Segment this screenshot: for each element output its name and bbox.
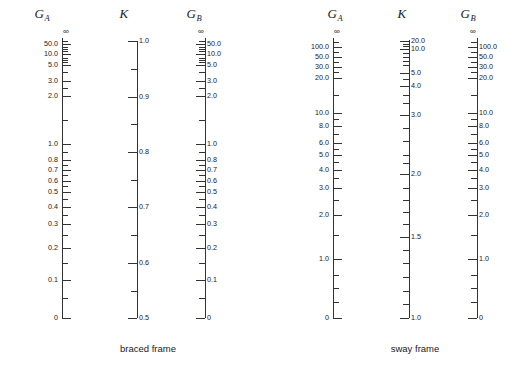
- major-tick: [400, 73, 409, 74]
- panel-sway: GA∞100.050.030.020.010.08.06.05.04.03.02…: [0, 0, 527, 365]
- major-tick: [333, 215, 342, 216]
- tick-label: 0: [479, 314, 527, 321]
- major-tick: [468, 57, 477, 58]
- minor-tick: [471, 134, 477, 135]
- minor-tick: [471, 72, 477, 73]
- tick-label: 2.0: [279, 211, 329, 218]
- minor-tick: [403, 44, 409, 45]
- alignment-chart-figure: GA∞50.010.05.03.02.01.00.80.70.60.50.40.…: [0, 0, 527, 365]
- minor-tick: [333, 288, 339, 289]
- scale-title-sway-gb: GB: [408, 6, 527, 22]
- tick-label: 8.0: [279, 122, 329, 129]
- major-tick: [400, 86, 409, 87]
- minor-tick: [471, 275, 477, 276]
- scale-title-main: K: [398, 6, 407, 21]
- minor-tick: [333, 95, 339, 96]
- minor-tick: [403, 141, 409, 142]
- major-tick: [400, 318, 409, 319]
- minor-tick: [333, 119, 339, 120]
- minor-tick: [333, 149, 339, 150]
- minor-tick: [403, 155, 409, 156]
- tick-label: 20.0: [479, 74, 527, 81]
- minor-tick: [403, 46, 409, 47]
- minor-tick: [471, 149, 477, 150]
- tick-label: 8.0: [479, 122, 527, 129]
- tick-label: 2.0: [479, 211, 527, 218]
- minor-tick: [471, 95, 477, 96]
- minor-tick: [403, 291, 409, 292]
- tick-label: 100.0: [479, 43, 527, 50]
- major-tick: [333, 259, 342, 260]
- caption-sway: sway frame: [355, 344, 475, 354]
- minor-tick: [471, 42, 477, 43]
- tick-label: 4.0: [411, 82, 461, 89]
- major-tick: [468, 67, 477, 68]
- tick-label: 0: [279, 314, 329, 321]
- minor-tick: [471, 52, 477, 53]
- major-tick: [333, 78, 342, 79]
- major-tick: [400, 115, 409, 116]
- major-tick: [400, 41, 409, 42]
- minor-tick: [471, 200, 477, 201]
- minor-tick: [471, 119, 477, 120]
- tick-label: 5.0: [479, 151, 527, 158]
- major-tick: [333, 57, 342, 58]
- minor-tick: [471, 235, 477, 236]
- minor-tick: [471, 288, 477, 289]
- minor-tick: [403, 65, 409, 66]
- minor-tick: [403, 212, 409, 213]
- scale-title-main: G: [461, 6, 471, 21]
- minor-tick: [333, 235, 339, 236]
- major-tick: [468, 78, 477, 79]
- tick-label: 1.0: [279, 255, 329, 262]
- major-tick: [333, 47, 342, 48]
- minor-tick: [333, 72, 339, 73]
- major-tick: [333, 143, 342, 144]
- tick-label: 30.0: [479, 63, 527, 70]
- tick-label: 10.0: [279, 109, 329, 116]
- major-tick: [333, 155, 342, 156]
- minor-tick: [333, 52, 339, 53]
- minor-tick: [403, 224, 409, 225]
- major-tick: [333, 126, 342, 127]
- tick-label: 100.0: [279, 43, 329, 50]
- minor-tick: [403, 128, 409, 129]
- major-tick: [468, 143, 477, 144]
- major-tick: [400, 237, 409, 238]
- major-tick: [468, 188, 477, 189]
- minor-tick: [403, 277, 409, 278]
- tick-label: 5.0: [411, 69, 461, 76]
- tick-label: 1.0: [411, 314, 461, 321]
- minor-tick: [333, 200, 339, 201]
- tick-label: 4.0: [279, 166, 329, 173]
- tick-label: 3.0: [479, 184, 527, 191]
- tick-label: 4.0: [479, 166, 527, 173]
- infinity-symbol-sway-gb: ∞: [470, 28, 476, 36]
- major-tick: [333, 170, 342, 171]
- minor-tick: [403, 200, 409, 201]
- minor-tick: [333, 178, 339, 179]
- major-tick: [468, 215, 477, 216]
- tick-label: 30.0: [279, 63, 329, 70]
- tick-label: 50.0: [479, 53, 527, 60]
- major-tick: [468, 47, 477, 48]
- minor-tick: [403, 57, 409, 58]
- minor-tick: [403, 95, 409, 96]
- minor-tick: [403, 79, 409, 80]
- minor-tick: [333, 302, 339, 303]
- tick-label: 50.0: [279, 53, 329, 60]
- minor-tick: [333, 275, 339, 276]
- major-tick: [468, 126, 477, 127]
- tick-label: 6.0: [479, 139, 527, 146]
- axis-line-sway-gb: [477, 38, 478, 318]
- tick-label: 20.0: [279, 74, 329, 81]
- tick-label: 3.0: [411, 111, 461, 118]
- minor-tick: [471, 302, 477, 303]
- tick-label: 10.0: [479, 109, 527, 116]
- major-tick: [468, 318, 477, 319]
- major-tick: [333, 318, 342, 319]
- major-tick: [468, 170, 477, 171]
- major-tick: [400, 174, 409, 175]
- minor-tick: [471, 178, 477, 179]
- major-tick: [468, 155, 477, 156]
